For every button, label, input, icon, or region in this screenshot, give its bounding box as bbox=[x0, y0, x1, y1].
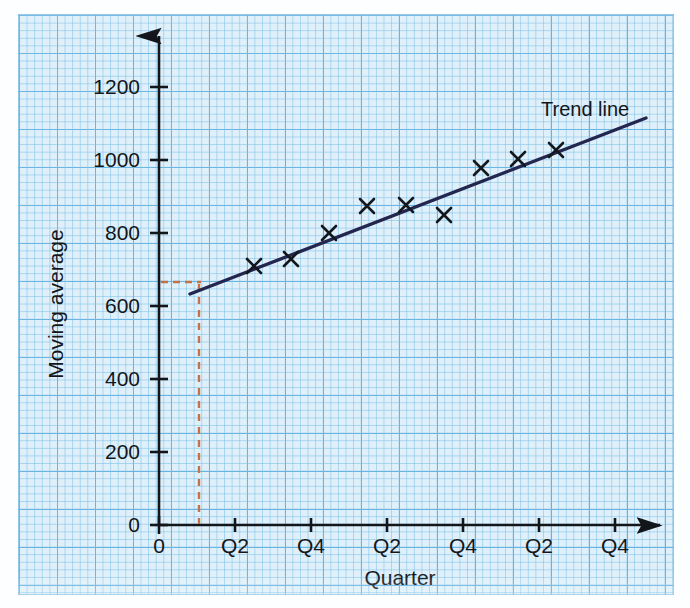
x-tick-label-2: Q4 bbox=[286, 534, 336, 558]
y-tick-label-200: 200 bbox=[40, 440, 140, 464]
chart-figure: 1200 1000 800 600 400 200 0 0 Q2 Q4 Q2 Q… bbox=[0, 0, 690, 608]
trend-line-annotation: Trend line bbox=[541, 98, 629, 121]
y-tick-label-1000: 1000 bbox=[40, 148, 140, 172]
x-tick-label-4: Q4 bbox=[438, 534, 488, 558]
x-tick-label-6: Q4 bbox=[590, 534, 640, 558]
data-point bbox=[360, 199, 374, 213]
y-tick-label-1200: 1200 bbox=[40, 75, 140, 99]
x-tick-label-origin: 0 bbox=[134, 534, 184, 558]
data-point bbox=[437, 208, 451, 222]
data-point bbox=[474, 161, 488, 175]
data-point bbox=[322, 226, 336, 240]
x-tick-label-1: Q2 bbox=[210, 534, 260, 558]
y-tick-label-0: 0 bbox=[40, 513, 140, 537]
trend-line bbox=[190, 118, 646, 294]
y-axis-title: Moving average bbox=[44, 204, 68, 404]
x-tick-label-3: Q2 bbox=[362, 534, 412, 558]
data-point bbox=[511, 152, 525, 166]
x-axis-title: Quarter bbox=[300, 566, 500, 590]
x-tick-label-5: Q2 bbox=[514, 534, 564, 558]
